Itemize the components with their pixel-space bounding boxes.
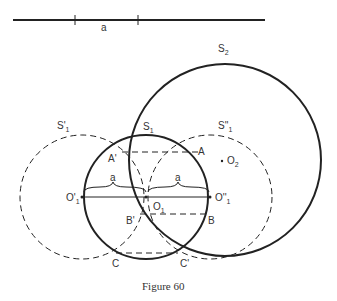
figure-60: a S2 S1 S'1 S''1 A' A B' B C C' O2 O1 O'… — [0, 0, 337, 301]
figure-caption: Figure 60 — [142, 280, 185, 292]
svg-text:B: B — [208, 215, 215, 226]
svg-text:S'1: S'1 — [57, 120, 70, 133]
svg-text:O2: O2 — [227, 155, 239, 168]
svg-text:C: C — [112, 258, 119, 269]
svg-text:C': C' — [180, 258, 189, 269]
svg-text:a: a — [110, 172, 116, 183]
svg-text:S1: S1 — [143, 121, 154, 134]
svg-text:A': A' — [108, 153, 117, 164]
svg-text:a: a — [175, 172, 181, 183]
svg-text:A: A — [198, 146, 205, 157]
svg-text:S2: S2 — [218, 43, 229, 56]
svg-text:B': B' — [126, 215, 135, 226]
segment-label: a — [101, 22, 107, 33]
svg-text:O1: O1 — [153, 201, 165, 214]
circle-s2 — [129, 64, 321, 256]
svg-text:O''1: O''1 — [215, 192, 231, 205]
geometry-diagram: a S2 S1 S'1 S''1 A' A B' B C C' O2 O1 O'… — [0, 0, 337, 301]
svg-text:O'1: O'1 — [66, 192, 80, 205]
svg-text:S''1: S''1 — [218, 120, 233, 133]
